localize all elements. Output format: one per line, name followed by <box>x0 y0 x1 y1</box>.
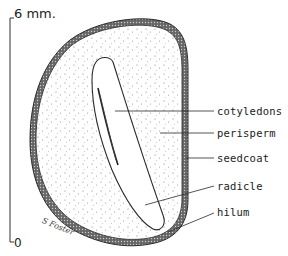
label-seedcoat: seedcoat <box>217 152 269 164</box>
scale-bottom-label: 0 <box>14 236 22 250</box>
scale-bar <box>10 18 14 242</box>
label-radicle: radicle <box>217 180 263 192</box>
label-perisperm: perisperm <box>217 127 276 139</box>
label-hilum: hilum <box>217 206 250 218</box>
label-cotyledons: cotyledons <box>217 105 282 117</box>
scale-top-label: 6 mm. <box>14 6 56 21</box>
